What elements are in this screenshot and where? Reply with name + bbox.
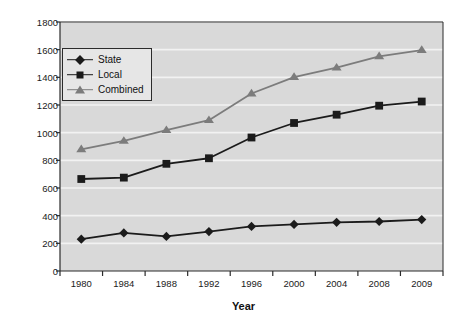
x-tick-label: 2000 [283,278,304,289]
local-marker-icon [67,68,93,82]
chart-legend: State Local Combined [62,48,152,101]
legend-label-local: Local [98,69,122,80]
x-tick-label: 1980 [71,278,92,289]
x-tick-label: 1992 [198,278,219,289]
line-chart: In thousands 020040060080010001200140016… [0,0,469,321]
x-tick-label: 1988 [156,278,177,289]
legend-item-state[interactable]: State [67,52,144,67]
x-tick-label: 1984 [113,278,134,289]
legend-item-local[interactable]: Local [67,67,144,82]
x-tick-label: 2004 [326,278,347,289]
legend-label-combined: Combined [98,84,144,95]
legend-item-combined[interactable]: Combined [67,82,144,97]
x-tick-label: 2008 [369,278,390,289]
x-axis-title: Year [0,300,469,312]
x-tick-label: 2009 [411,278,432,289]
legend-label-state: State [98,54,121,65]
combined-marker-icon [67,83,93,97]
state-marker-icon [67,53,93,67]
x-tick-label: 1996 [241,278,262,289]
